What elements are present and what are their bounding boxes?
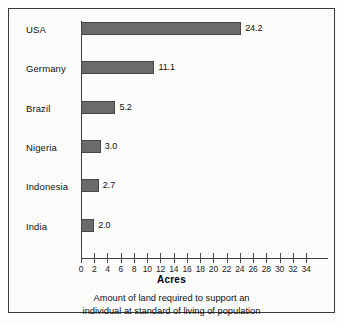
x-tick-label: 0 (79, 264, 84, 274)
bar-row: Brazil5.2 (9, 100, 334, 139)
x-tick (134, 253, 135, 263)
x-tick (81, 253, 82, 263)
x-tick-label: 4 (105, 264, 110, 274)
x-tick-label: 34 (302, 264, 311, 274)
bar-value-label: 2.0 (98, 220, 110, 230)
bar-value-label: 2.7 (103, 180, 115, 190)
x-tick-label: 22 (222, 264, 231, 274)
caption-line-1: Amount of land required to support an (9, 292, 334, 305)
bar (81, 219, 94, 232)
bar-row: Germany11.1 (9, 60, 334, 99)
x-tick-label: 26 (249, 264, 258, 274)
x-tick (187, 253, 188, 263)
category-label: India (26, 221, 47, 232)
x-tick-label: 24 (235, 264, 244, 274)
x-tick-label: 28 (262, 264, 271, 274)
x-axis-title: Acres (9, 274, 334, 285)
x-tick (253, 253, 254, 263)
bar-row: USA24.2 (9, 21, 334, 60)
bar (81, 179, 99, 192)
bar-row: Nigeria3.0 (9, 139, 334, 178)
x-tick (94, 253, 95, 263)
x-tick (200, 253, 201, 263)
caption-line-2: individual at standard of living of popu… (9, 305, 334, 318)
x-tick (240, 253, 241, 263)
bar (81, 140, 101, 153)
bar (81, 61, 154, 74)
category-label: Indonesia (26, 181, 68, 192)
x-tick (306, 253, 307, 263)
x-tick (174, 253, 175, 263)
bar-value-label: 11.1 (158, 62, 174, 72)
chart-caption: Amount of land required to support an in… (9, 292, 334, 317)
bar-row: India2.0 (9, 218, 334, 257)
x-tick-label: 20 (209, 264, 218, 274)
x-tick-label: 12 (156, 264, 165, 274)
x-tick (147, 253, 148, 263)
bar (81, 101, 115, 114)
x-tick (160, 253, 161, 263)
x-tick-label: 32 (288, 264, 297, 274)
x-tick (107, 253, 108, 263)
x-tick-label: 10 (143, 264, 152, 274)
x-tick-label: 18 (196, 264, 205, 274)
x-tick-label: 30 (275, 264, 284, 274)
chart-frame: USA24.2Germany11.1Brazil5.2Nigeria3.0Ind… (8, 8, 335, 313)
bar (81, 22, 241, 35)
x-tick (213, 253, 214, 263)
x-tick-label: 8 (132, 264, 137, 274)
category-label: USA (26, 24, 46, 35)
chart-figure: USA24.2Germany11.1Brazil5.2Nigeria3.0Ind… (0, 0, 343, 323)
x-tick-label: 6 (118, 264, 123, 274)
x-tick (293, 253, 294, 263)
category-label: Nigeria (26, 142, 57, 153)
x-tick (121, 253, 122, 263)
bar-row: Indonesia2.7 (9, 178, 334, 217)
x-tick-label: 14 (169, 264, 178, 274)
x-tick (266, 253, 267, 263)
x-tick (280, 253, 281, 263)
x-tick-label: 2 (92, 264, 97, 274)
bar-value-label: 3.0 (105, 141, 117, 151)
x-axis-line (81, 258, 328, 259)
bar-value-label: 24.2 (245, 23, 262, 33)
category-label: Brazil (26, 103, 50, 114)
x-tick (227, 253, 228, 263)
bar-value-label: 5.2 (119, 102, 131, 112)
category-label: Germany (26, 63, 66, 74)
x-tick-label: 16 (182, 264, 191, 274)
